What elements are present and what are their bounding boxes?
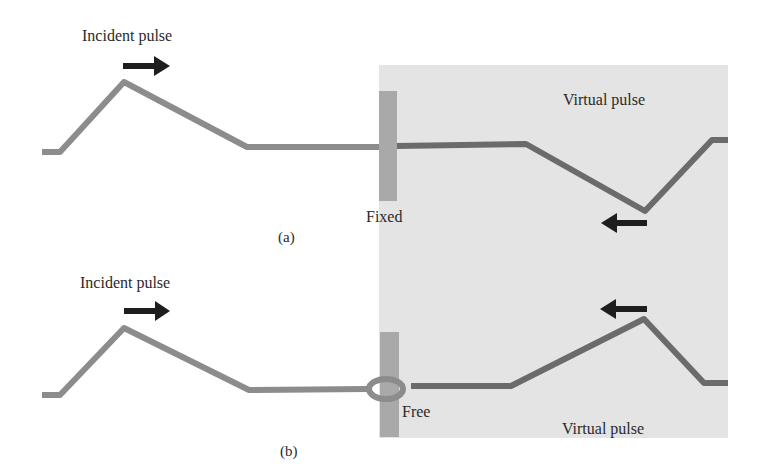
- right-arrow-icon: [124, 301, 170, 321]
- reflection-diagram: [0, 0, 762, 475]
- free-end-label: Free: [402, 404, 430, 420]
- virtual-pulse-label-b: Virtual pulse: [562, 421, 644, 437]
- incident-string-a: [42, 82, 379, 152]
- incident-pulse-label-a: Incident pulse: [82, 28, 172, 44]
- incident-string-b: [42, 328, 368, 395]
- virtual-region: [379, 65, 728, 438]
- caption-a: (a): [278, 230, 295, 245]
- fixed-end-label: Fixed: [366, 209, 402, 225]
- right-arrow-icon: [123, 56, 170, 76]
- virtual-pulse-label-a: Virtual pulse: [563, 92, 645, 108]
- fixed-wall: [379, 91, 397, 201]
- caption-b: (b): [280, 444, 298, 459]
- incident-pulse-label-b: Incident pulse: [80, 275, 170, 291]
- free-end-rod: [380, 332, 399, 437]
